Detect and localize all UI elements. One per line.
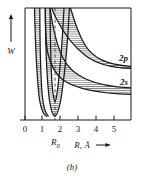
x-tick-label-5: 5 bbox=[112, 124, 117, 134]
x-axis-arrow-icon bbox=[96, 143, 110, 147]
figure-container: 0 1 2 3 4 5 R0 R, Å W 2p 2s (b) bbox=[0, 0, 144, 179]
x-tick-label-4: 4 bbox=[94, 124, 99, 134]
figure-caption: (b) bbox=[67, 162, 78, 172]
y-axis-arrow-icon bbox=[9, 14, 13, 42]
x-tick-label-1: 1 bbox=[40, 124, 45, 134]
x-axis-ticks bbox=[25, 116, 114, 121]
y-axis-label: W bbox=[7, 46, 16, 56]
curve-label-2s: 2s bbox=[119, 77, 129, 87]
x-tick-label-3: 3 bbox=[76, 124, 81, 134]
r0-subscript: 0 bbox=[57, 142, 61, 149]
x-tick-label-0: 0 bbox=[23, 124, 28, 134]
x-tick-label-2: 2 bbox=[58, 124, 63, 134]
x-axis-label: R, Å bbox=[73, 140, 90, 150]
r0-marker-label: R0 bbox=[50, 137, 61, 149]
potential-energy-curves-chart: 0 1 2 3 4 5 R0 R, Å W 2p 2s (b) bbox=[0, 0, 144, 179]
curve-label-2p: 2p bbox=[118, 53, 129, 63]
